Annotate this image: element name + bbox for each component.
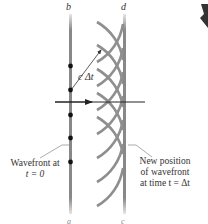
wavefront-dt-line [123, 14, 126, 214]
label-c-delta-t: c Δt [78, 71, 94, 82]
label-d: d [121, 1, 126, 12]
caption-left-line2: t = 0 [3, 169, 67, 180]
left-leader [40, 145, 69, 158]
caption-left-line1: Wavefront at [3, 158, 67, 169]
huygens-diagram [0, 0, 208, 224]
caption-wavefront-dt: New position of wavefront at time t = Δt [127, 156, 203, 189]
label-a: a [67, 216, 71, 224]
caption-right-line1: New position [127, 156, 203, 167]
caption-right-line2: of wavefront [127, 167, 203, 178]
caption-right-line3: at time t = Δt [127, 178, 203, 189]
wavelet-arcs [97, 22, 123, 206]
label-b: b [66, 1, 71, 12]
star-icon [200, 4, 208, 28]
label-c: c [121, 216, 125, 224]
caption-wavefront-t0: Wavefront at t = 0 [3, 158, 67, 180]
